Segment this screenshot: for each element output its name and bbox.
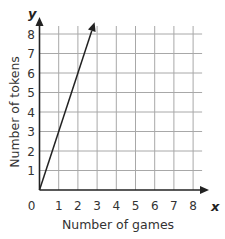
- y-axis-arrow-icon: [36, 17, 44, 26]
- x-tick-label: 1: [55, 199, 63, 213]
- x-tick-label: 7: [170, 199, 178, 213]
- y-tick-label: 1: [27, 164, 35, 178]
- y-tick-label: 2: [27, 145, 35, 159]
- y-tick-label: 8: [27, 28, 35, 42]
- series-arrow-icon: [88, 22, 96, 32]
- tick-labels: 01234567812345678: [27, 28, 197, 214]
- y-tick-label: 4: [27, 106, 35, 120]
- x-tick-label: 4: [112, 199, 120, 213]
- y-tick-label: 3: [27, 125, 35, 139]
- chart: 01234567812345678 x y Number of games Nu…: [0, 0, 225, 239]
- y-axis-variable: y: [28, 6, 37, 21]
- grid-lines: [40, 26, 203, 190]
- x-tick-label: 5: [132, 199, 140, 213]
- series-line: [40, 31, 92, 190]
- data-series: [40, 22, 96, 190]
- y-tick-label: 7: [27, 47, 35, 61]
- x-tick-label: 6: [151, 199, 159, 213]
- y-tick-label: 6: [27, 67, 35, 81]
- x-tick-label: 8: [189, 199, 197, 213]
- y-tick-label: 5: [27, 86, 35, 100]
- x-axis-arrow-icon: [200, 186, 209, 194]
- x-tick-label: 0: [28, 199, 36, 213]
- axes: [36, 17, 210, 194]
- x-axis-label: Number of games: [62, 217, 174, 232]
- x-tick-label: 2: [74, 199, 82, 213]
- y-axis-label: Number of tokens: [7, 56, 22, 168]
- x-axis-variable: x: [210, 199, 220, 214]
- x-tick-label: 3: [93, 199, 101, 213]
